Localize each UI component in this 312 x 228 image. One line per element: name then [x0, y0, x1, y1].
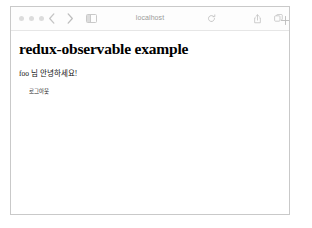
- page-title: redux-observable example: [19, 31, 281, 58]
- browser-window: localhost redux-observable example foo 님…: [10, 6, 290, 215]
- logout-button[interactable]: 로그아웃: [27, 87, 51, 95]
- reload-icon[interactable]: [207, 14, 216, 23]
- address-title[interactable]: localhost: [11, 14, 289, 21]
- page-content: redux-observable example foo 님 안녕하세요! 로그…: [11, 31, 289, 214]
- plus-icon[interactable]: [280, 15, 290, 26]
- toolbar-right-icons: [253, 14, 283, 24]
- greeting-text: foo 님 안녕하세요!: [19, 58, 281, 78]
- share-icon[interactable]: [253, 14, 262, 24]
- browser-toolbar: localhost: [11, 7, 289, 31]
